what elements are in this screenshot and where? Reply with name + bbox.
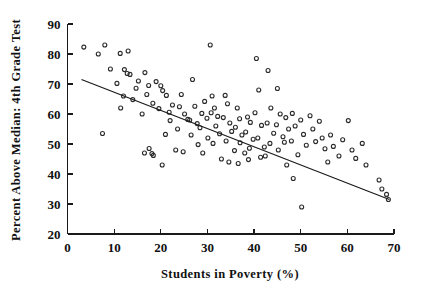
y-tick-label: 70 (48, 77, 61, 92)
x-tick-label: 10 (108, 240, 121, 255)
y-tick-label: 50 (48, 137, 61, 152)
y-tick-label: 30 (48, 197, 61, 212)
y-axis-title: Percent Above Median: 4th Grade Test (9, 18, 23, 241)
y-tick-label: 40 (48, 167, 61, 182)
x-tick-label: 70 (388, 240, 401, 255)
x-tick-label: 30 (201, 240, 214, 255)
x-tick-label: 40 (248, 240, 261, 255)
x-tick-label: 50 (294, 240, 307, 255)
y-tick-label: 20 (48, 227, 61, 242)
y-tick-label: 60 (48, 107, 61, 122)
x-tick-label: 60 (341, 240, 354, 255)
y-tick-label: 90 (48, 17, 61, 32)
x-tick-label: 20 (154, 240, 167, 255)
y-tick-label: 80 (48, 47, 61, 62)
scatter-plot-figure: 2030405060708090 010203040506070 Student… (0, 0, 424, 293)
scatter-plot-canvas: 2030405060708090 010203040506070 Student… (0, 0, 424, 293)
x-tick-label: 0 (64, 240, 71, 255)
x-axis-title: Students in Poverty (%) (161, 267, 299, 281)
